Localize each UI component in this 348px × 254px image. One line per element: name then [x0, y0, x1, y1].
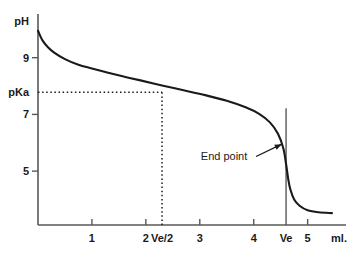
x-tick-label-Ve: Ve [280, 232, 293, 244]
x-tick-label-1: 1 [89, 232, 95, 244]
x-axis-unit-label: ml. [331, 232, 347, 244]
x-tick-label-2: 2 [143, 232, 149, 244]
y-tick-label-pKa: pKa [8, 86, 30, 98]
annotation-arrow-head [274, 144, 282, 150]
titration-chart-svg: 9pKa7512Ve/234Ve5pHml.End point [0, 0, 348, 254]
y-axis-title: pH [14, 15, 29, 27]
x-tick-label-4: 4 [251, 232, 258, 244]
x-tick-label-5: 5 [305, 232, 311, 244]
y-tick-label-9: 9 [23, 52, 29, 64]
x-tick-label-3: 3 [197, 232, 203, 244]
annotation-label-end-point: End point [201, 150, 247, 162]
x-tick-label-Ve-2: Ve/2 [151, 232, 173, 244]
y-tick-label-7: 7 [23, 108, 29, 120]
titration-curve-path [38, 31, 332, 213]
y-tick-label-5: 5 [23, 165, 29, 177]
titration-curve-figure: 9pKa7512Ve/234Ve5pHml.End point [0, 0, 348, 254]
